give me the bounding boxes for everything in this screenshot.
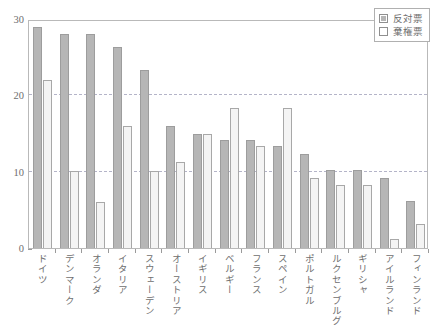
bar-opposing (113, 47, 122, 248)
x-tick-mark (108, 249, 109, 253)
bar-abstain (150, 171, 159, 248)
x-tick-mark (295, 249, 296, 253)
bar-opposing (86, 34, 95, 248)
x-tick-label: オランダ (91, 254, 101, 296)
bar-abstain (256, 146, 265, 248)
legend-label-opposing: 反対票 (393, 14, 423, 24)
bar-opposing (193, 134, 202, 249)
x-tick-label: オーストリア (171, 254, 181, 316)
legend-label-abstain: 棄権票 (393, 27, 423, 37)
x-tick-mark (321, 249, 322, 253)
y-tick-mark (28, 249, 32, 250)
bar-opposing (246, 140, 255, 248)
x-tick-label: イタリア (117, 254, 127, 296)
x-tick-mark (81, 249, 82, 253)
legend-swatch-abstain-icon (379, 27, 388, 36)
x-tick-label: フランス (251, 254, 261, 296)
bar-opposing (300, 154, 309, 248)
x-tick-label: ベルギー (224, 254, 234, 296)
y-tick-label: 30 (0, 15, 24, 25)
bar-abstain (96, 202, 105, 248)
x-tick-mark (428, 249, 429, 253)
bar-opposing (140, 70, 149, 248)
bar-abstain (43, 80, 52, 248)
bar-opposing (60, 34, 69, 248)
x-tick-label: ギリシャ (357, 254, 367, 296)
bar-abstain (310, 178, 319, 248)
x-tick-label: デンマーク (64, 254, 74, 306)
y-tick-label: 10 (0, 168, 24, 178)
x-tick-mark (348, 249, 349, 253)
x-tick-label: ルクセンブルグ (331, 254, 341, 327)
bar-abstain (363, 185, 372, 248)
x-tick-mark (375, 249, 376, 253)
bar-abstain (230, 108, 239, 248)
bar-abstain (176, 162, 185, 248)
x-tick-label: スウェーデン (144, 254, 154, 316)
x-tick-label: スペイン (277, 254, 287, 296)
x-tick-mark (241, 249, 242, 253)
x-tick-label: フィンランド (411, 254, 421, 316)
legend-item: 棄権票 (379, 25, 423, 38)
bar-opposing (220, 140, 229, 248)
bar-opposing (273, 146, 282, 248)
x-tick-label: イギリス (197, 254, 207, 296)
bar-opposing (33, 27, 42, 248)
bar-opposing (353, 170, 362, 248)
bar-opposing (326, 170, 335, 248)
bar-abstain (336, 185, 345, 248)
bar-abstain (123, 126, 132, 248)
legend-swatch-opposing-icon (379, 14, 388, 23)
x-tick-mark (268, 249, 269, 253)
x-tick-mark (401, 249, 402, 253)
bar-abstain (70, 171, 79, 248)
x-tick-label: ポルトガル (304, 254, 314, 306)
x-tick-mark (135, 249, 136, 253)
bar-opposing (380, 178, 389, 248)
bar-abstain (416, 224, 425, 248)
bar-abstain (203, 134, 212, 249)
x-tick-label: アイルランド (384, 254, 394, 316)
figure: 0102030 ドイツデンマークオランダイタリアスウェーデンオーストリアイギリス… (0, 0, 438, 331)
x-tick-mark (215, 249, 216, 253)
x-tick-mark (55, 249, 56, 253)
x-tick-label: ドイツ (37, 254, 47, 285)
chart-legend: 反対票 棄権票 (374, 8, 430, 42)
bar-abstain (390, 239, 399, 248)
plot-area (28, 20, 428, 249)
bar-opposing (166, 126, 175, 248)
x-tick-mark (188, 249, 189, 253)
y-tick-label: 20 (0, 91, 24, 101)
y-tick-label: 0 (0, 244, 24, 254)
bar-opposing (406, 201, 415, 248)
x-tick-mark (161, 249, 162, 253)
bar-abstain (283, 108, 292, 248)
legend-item: 反対票 (379, 12, 423, 25)
